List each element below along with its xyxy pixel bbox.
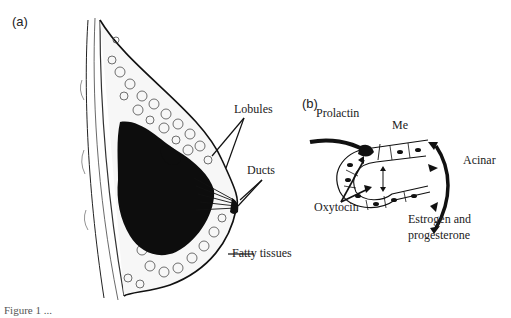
label-oxytocin: Oxytocin	[314, 200, 359, 215]
panel-a-label: (a)	[12, 14, 28, 29]
breast-illustration	[80, 18, 238, 300]
label-prolactin: Prolactin	[316, 106, 359, 121]
label-progesterone: progesterone	[408, 228, 470, 243]
label-me: Me	[392, 118, 408, 133]
label-lobules: Lobules	[234, 102, 273, 117]
label-ducts: Ducts	[247, 163, 275, 178]
label-acinar: Acinar	[463, 153, 496, 168]
label-estrogen: Estrogen and	[408, 212, 471, 227]
figure-caption-cutoff: Figure 1 ...	[4, 304, 509, 318]
label-fatty-tissues: Fatty tissues	[232, 246, 292, 261]
